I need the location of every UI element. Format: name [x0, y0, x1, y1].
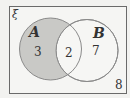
set-a-only-count: 3	[34, 45, 42, 59]
set-a-label: A	[27, 24, 40, 40]
venn-svg: ξ A B 3 2 7 8	[0, 0, 130, 98]
outside-count: 8	[115, 78, 123, 92]
intersection-count: 2	[65, 46, 73, 60]
venn-diagram: ξ A B 3 2 7 8	[0, 0, 130, 98]
set-b-label: B	[92, 25, 105, 41]
universal-set-symbol: ξ	[12, 8, 19, 21]
set-b-only-count: 7	[92, 44, 100, 58]
